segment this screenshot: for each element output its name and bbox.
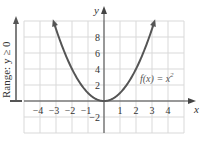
svg-text:2: 2 <box>95 80 100 91</box>
curve-right-arrow-icon <box>150 19 156 27</box>
svg-text:−2: −2 <box>89 112 100 123</box>
function-label: f(x) = x2 <box>140 71 174 85</box>
svg-text:2: 2 <box>134 105 139 116</box>
y-axis-label: y <box>93 4 99 16</box>
y-axis-arrow-icon <box>101 6 107 14</box>
parabola-chart: x y −4−3−2−11234 8642−2 f(x) = x2 Range:… <box>0 0 202 142</box>
svg-text:8: 8 <box>95 32 100 43</box>
svg-text:−3: −3 <box>49 105 60 116</box>
svg-text:−2: −2 <box>65 105 76 116</box>
svg-text:4: 4 <box>95 64 100 75</box>
range-label: Range: y ≥ 0 <box>0 41 12 98</box>
range-arrow-icon <box>13 16 19 24</box>
svg-text:3: 3 <box>150 105 155 116</box>
curve-left-arrow-icon <box>52 19 58 27</box>
svg-text:4: 4 <box>166 105 171 116</box>
x-tick-labels: −4−3−2−11234 <box>33 105 171 116</box>
range-indicator: Range: y ≥ 0 <box>0 16 22 101</box>
svg-text:6: 6 <box>95 48 100 59</box>
svg-text:1: 1 <box>118 105 123 116</box>
svg-text:−4: −4 <box>33 105 44 116</box>
x-axis-label: x <box>193 103 199 115</box>
